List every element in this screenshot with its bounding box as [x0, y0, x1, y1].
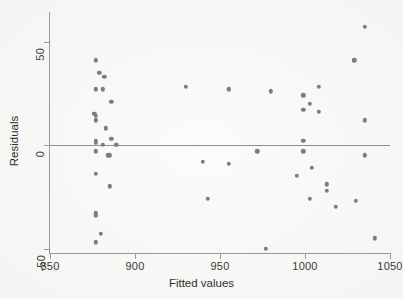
scatter-point — [184, 85, 188, 89]
scatter-point — [104, 126, 108, 130]
scatter-point — [109, 137, 113, 141]
y-tick-mark — [44, 145, 50, 146]
scatter-point — [362, 153, 366, 157]
x-tick-mark — [50, 254, 51, 259]
scatter-point — [301, 149, 305, 153]
y-tick-mark — [44, 42, 50, 43]
residual-plot-figure: Residuals 500-50 85090095010001050 Fitte… — [0, 0, 403, 299]
scatter-point — [94, 240, 98, 244]
y-tick-mark — [44, 249, 50, 250]
scatter-point — [107, 184, 111, 188]
x-tick-mark — [135, 254, 136, 259]
scatter-point — [308, 101, 312, 105]
scatter-point — [201, 159, 205, 163]
scatter-point — [226, 87, 230, 91]
scatter-point — [99, 232, 103, 236]
scatter-point — [362, 118, 366, 122]
scatter-point — [301, 93, 305, 97]
x-tick-label: 1000 — [292, 260, 317, 272]
x-tick-label: 900 — [126, 260, 145, 272]
scatter-point — [316, 85, 320, 89]
scatter-point — [301, 108, 305, 112]
scatter-point — [100, 87, 104, 91]
scatter-point — [352, 58, 356, 62]
y-tick-label: 50 — [34, 54, 46, 67]
x-tick-label: 950 — [211, 260, 230, 272]
x-tick-mark — [220, 254, 221, 259]
scatter-point — [325, 182, 329, 186]
scatter-point — [308, 197, 312, 201]
scatter-point — [94, 149, 98, 153]
scatter-point — [100, 143, 104, 147]
y-axis-title: Residuals — [6, 0, 22, 299]
x-tick-label: 1050 — [377, 260, 402, 272]
x-axis-title: Fitted values — [0, 277, 403, 289]
scatter-point — [97, 70, 101, 74]
scatter-point — [94, 118, 98, 122]
scatter-point — [362, 25, 366, 29]
y-tick-label: 0 — [34, 154, 46, 160]
scatter-point — [114, 143, 118, 147]
scatter-point — [310, 166, 314, 170]
scatter-point — [226, 161, 230, 165]
scatter-point — [333, 205, 337, 209]
scatter-point — [269, 89, 273, 93]
scatter-point — [94, 213, 98, 217]
scatter-point — [316, 110, 320, 114]
scatter-point — [206, 197, 210, 201]
y-axis-title-label: Residuals — [8, 115, 20, 166]
scatter-point — [294, 174, 298, 178]
scatter-point — [102, 74, 106, 78]
scatter-point — [325, 188, 329, 192]
scatter-point — [372, 236, 376, 240]
x-tick-mark — [305, 254, 306, 259]
scatter-point — [264, 246, 268, 250]
scatter-point — [94, 87, 98, 91]
x-tick-mark — [390, 254, 391, 259]
x-tick-label: 850 — [41, 260, 60, 272]
scatter-point — [354, 199, 358, 203]
y-axis-line — [49, 12, 50, 254]
scatter-point — [255, 149, 259, 153]
scatter-point — [94, 172, 98, 176]
scatter-point — [94, 58, 98, 62]
scatter-point — [109, 99, 113, 103]
scatter-point — [107, 153, 111, 157]
scatter-point — [301, 139, 305, 143]
